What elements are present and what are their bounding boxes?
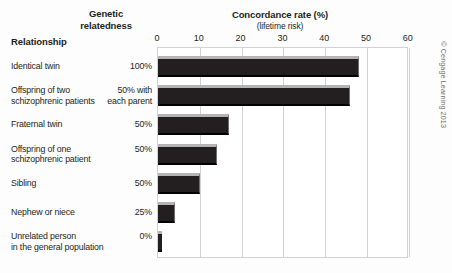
plot-area: [157, 47, 408, 258]
row-label-line2: in the general population: [11, 242, 131, 253]
x-tick-0: 0: [142, 33, 172, 43]
gridline-60: [409, 48, 410, 257]
gridline-20: [242, 48, 243, 257]
row-genetic-relatedness-3: 50%: [86, 119, 152, 130]
genetic-relatedness-line2: relatedness: [60, 20, 152, 32]
bar-row-6: [158, 202, 175, 223]
x-tick-30: 30: [267, 33, 297, 43]
genetic-relatedness-line1: Genetic: [60, 8, 152, 20]
copyright-credit: © Cengage Learning 2013: [439, 41, 448, 128]
row-genetic-relatedness-1: 100%: [86, 61, 152, 72]
chart-title: Concordance rate (%): [180, 9, 380, 21]
row-pct-line1: 50%: [86, 144, 152, 155]
row-pct-line1: 50%: [86, 178, 152, 189]
x-tick-10: 10: [184, 33, 214, 43]
relationship-header: Relationship: [11, 36, 67, 47]
row-pct-line1: 25%: [86, 207, 152, 218]
row-genetic-relatedness-6: 25%: [86, 207, 152, 218]
bar-row-1: [158, 56, 359, 77]
chart-subtitle: (lifetime risk): [180, 21, 380, 31]
row-pct-line1: 0%: [86, 231, 152, 242]
x-tick-50: 50: [351, 33, 381, 43]
bar-row-2: [158, 85, 350, 106]
row-pct-line2: each parent: [86, 96, 152, 107]
bar-row-3: [158, 114, 229, 135]
gridline-50: [367, 48, 368, 257]
row-genetic-relatedness-7: 0%: [86, 231, 152, 242]
bar-row-5: [158, 173, 200, 194]
x-tick-60: 60: [393, 33, 423, 43]
genetic-relatedness-header: Genetic relatedness: [60, 8, 152, 31]
row-pct-line1: 100%: [86, 61, 152, 72]
bar-row-4: [158, 144, 217, 165]
row-label-line2: schizophrenic patient: [11, 154, 131, 165]
x-tick-40: 40: [309, 33, 339, 43]
row-genetic-relatedness-5: 50%: [86, 178, 152, 189]
row-pct-line1: 50%: [86, 119, 152, 130]
bar-row-7: [158, 231, 162, 252]
chart-figure: Genetic relatedness Concordance rate (%)…: [0, 0, 452, 273]
row-genetic-relatedness-4: 50%: [86, 144, 152, 155]
gridline-30: [283, 48, 284, 257]
gridline-40: [325, 48, 326, 257]
row-pct-line1: 50% with: [86, 85, 152, 96]
row-genetic-relatedness-2: 50% witheach parent: [86, 85, 152, 106]
x-tick-20: 20: [226, 33, 256, 43]
